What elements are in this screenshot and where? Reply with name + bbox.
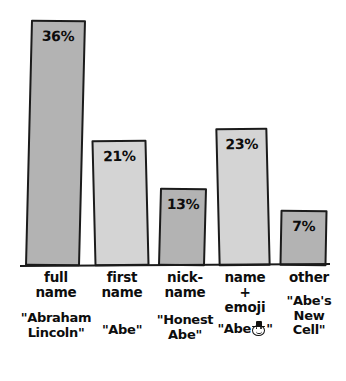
- category-column-other: other "Abe's New Cell": [278, 270, 340, 338]
- x-axis-labels: full name "Abraham Lincoln" first name "…: [0, 270, 346, 381]
- example-text: "Honest Abe": [152, 313, 218, 342]
- bar-name-plus-emoji: 23%: [215, 128, 270, 266]
- bar-full-name: 36%: [25, 20, 86, 266]
- example-text: "Abe": [88, 323, 156, 338]
- bar-value-label: 13%: [161, 196, 204, 212]
- hand-drawn-bar-chart: 36% 21% 13% 23% 7% full name "Abraham Li…: [0, 0, 346, 381]
- bar-first-name: 21%: [91, 140, 149, 267]
- category-label: full name: [20, 270, 92, 300]
- eye-right: [260, 327, 262, 329]
- example-text: "Abraham Lincoln": [20, 311, 92, 340]
- category-column-name-plus-emoji: name + emoji "Abe ": [212, 270, 278, 337]
- category-column-nickname: nick- name "Honest Abe": [152, 270, 218, 342]
- bar-value-label: 36%: [32, 28, 83, 44]
- bar-value-label: 23%: [218, 136, 266, 152]
- hat-crown: [256, 321, 262, 326]
- category-column-first-name: first name "Abe": [88, 270, 156, 338]
- bar-value-label: 7%: [282, 218, 325, 234]
- bars-area: 36% 21% 13% 23% 7%: [0, 0, 346, 270]
- category-label: nick- name: [152, 270, 218, 300]
- category-label: other: [278, 270, 340, 285]
- bar-value-label: 21%: [94, 148, 145, 165]
- category-label: first name: [88, 270, 156, 300]
- example-text: "Abe ": [212, 322, 278, 337]
- category-column-full-name: full name "Abraham Lincoln": [20, 270, 92, 340]
- example-text: "Abe's New Cell": [278, 294, 340, 338]
- category-label: name + emoji: [212, 270, 278, 315]
- tophat-smiley-emoji: [251, 322, 266, 336]
- eye-left: [256, 327, 258, 329]
- bar-nickname: 13%: [158, 188, 207, 266]
- bar-other: 7%: [279, 210, 327, 266]
